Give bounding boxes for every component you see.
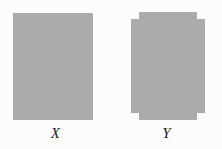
figure-x: X [0, 0, 111, 149]
shape-y-notched-rectangle [131, 12, 205, 120]
shape-x-rectangle [13, 13, 93, 120]
figure-y: Y [111, 0, 222, 149]
figure-x-label: X [0, 124, 111, 142]
figure-y-label: Y [111, 124, 222, 142]
geometry-figure: X Y [0, 0, 222, 149]
